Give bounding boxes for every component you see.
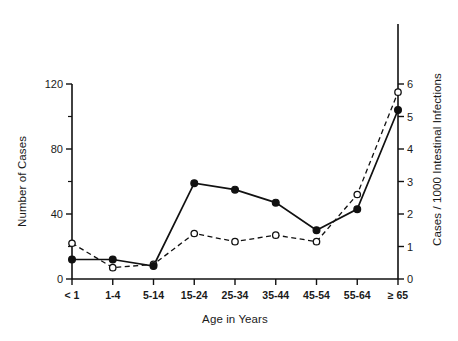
- right-tick-label: 6: [407, 78, 413, 90]
- right-tick-label: 5: [407, 111, 413, 123]
- data-point-cases: [232, 186, 239, 193]
- data-point-rate: [395, 89, 401, 95]
- x-category-label: 35-44: [262, 289, 289, 301]
- data-point-cases: [395, 107, 402, 114]
- right-tick-label: 2: [407, 208, 413, 220]
- data-point-cases: [150, 263, 157, 270]
- x-category-label: ≥ 65: [388, 289, 409, 301]
- left-tick-label: 120: [45, 78, 63, 90]
- left-axis-tick-labels: 04080120: [45, 78, 63, 285]
- data-point-cases: [272, 199, 279, 206]
- left-tick-label: 40: [51, 208, 63, 220]
- data-point-rate: [354, 191, 360, 197]
- x-axis-title: Age in Years: [202, 313, 268, 325]
- right-tick-label: 1: [407, 241, 413, 253]
- data-point-cases: [354, 206, 361, 213]
- x-category-label: 25-34: [222, 289, 249, 301]
- x-category-label: < 1: [65, 289, 80, 301]
- left-tick-label: 80: [51, 143, 63, 155]
- data-point-rate: [232, 238, 238, 244]
- right-axis-tick-labels: 0123456: [407, 78, 413, 285]
- data-point-rate: [69, 240, 75, 246]
- line-chart: 04080120 0123456 < 11-45-1415-2425-3435-…: [0, 0, 458, 341]
- right-tick-label: 4: [407, 143, 413, 155]
- x-category-label: 55-64: [344, 289, 371, 301]
- chart-figure: 04080120 0123456 < 11-45-1415-2425-3435-…: [0, 0, 458, 341]
- x-axis-category-labels: < 11-45-1415-2425-3435-4445-5455-64≥ 65: [65, 289, 409, 301]
- data-point-rate: [273, 232, 279, 238]
- left-tick-label: 0: [57, 273, 63, 285]
- right-tick-label: 3: [407, 176, 413, 188]
- x-category-label: 5-14: [143, 289, 164, 301]
- series-cases-per-1000-points: [69, 89, 401, 271]
- right-tick-label: 0: [407, 273, 413, 285]
- data-point-cases: [313, 227, 320, 234]
- data-point-rate: [313, 238, 319, 244]
- x-category-label: 45-54: [303, 289, 330, 301]
- x-category-label: 15-24: [181, 289, 208, 301]
- data-point-rate: [110, 264, 116, 270]
- x-axis-ticks: [72, 279, 398, 285]
- data-point-cases: [69, 256, 76, 263]
- data-point-rate: [191, 230, 197, 236]
- x-category-label: 1-4: [105, 289, 120, 301]
- left-axis-ticks: [66, 84, 72, 279]
- left-axis-title: Number of Cases: [16, 136, 28, 227]
- data-point-cases: [109, 256, 116, 263]
- data-point-cases: [191, 180, 198, 187]
- right-axis-title: Cases / 1000 Intestinal Infections: [431, 73, 443, 246]
